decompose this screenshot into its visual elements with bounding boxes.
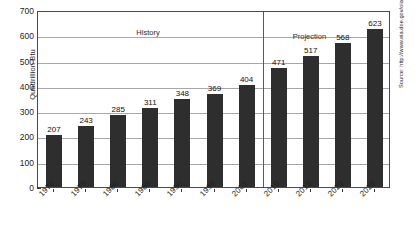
bar-2015 (303, 56, 319, 187)
bar-2025 (367, 29, 383, 187)
y-tick-label-0: 0 (0, 184, 34, 193)
bar-1975 (78, 126, 94, 187)
x-tickmark-1985 (149, 189, 150, 192)
bar-2001 (239, 85, 255, 187)
bar-chart: Quadrillion Btu 0100200300400500600700 2… (0, 0, 415, 252)
bar-2020 (335, 43, 351, 187)
bar-value-1975: 243 (72, 117, 100, 125)
history-projection-divider (263, 12, 264, 187)
bar-value-2015: 517 (297, 47, 325, 55)
x-tickmark-1995 (214, 189, 215, 192)
projection-label: Projection (293, 32, 326, 41)
bar-2010 (271, 68, 287, 187)
x-tickmark-1970 (53, 189, 54, 192)
x-tickmark-2020 (342, 189, 343, 192)
source-note: Source: http://www.eia.doe.gov/oiaf/ieo/… (398, 0, 404, 88)
x-tickmark-1990 (181, 189, 182, 192)
bar-value-2010: 471 (265, 59, 293, 67)
x-tickmark-2010 (278, 189, 279, 192)
y-tick-label-300: 300 (0, 108, 34, 117)
bar-value-1995: 369 (201, 85, 229, 93)
y-tick-label-700: 700 (0, 7, 34, 16)
bar-value-2001: 404 (233, 76, 261, 84)
bar-1980 (110, 115, 126, 187)
x-tickmark-2015 (310, 189, 311, 192)
history-label: History (136, 28, 159, 37)
bar-value-2025: 623 (361, 20, 389, 28)
bar-value-2020: 568 (329, 34, 357, 42)
plot-area: 207243285311348369404471517568623 Histor… (37, 11, 390, 188)
y-tick-label-100: 100 (0, 159, 34, 168)
x-tickmark-2025 (374, 189, 375, 192)
y-tick-label-600: 600 (0, 32, 34, 41)
y-tick-label-500: 500 (0, 58, 34, 67)
x-tickmark-1980 (117, 189, 118, 192)
y-axis-tick-labels: 0100200300400500600700 (0, 0, 34, 252)
x-tickmark-2001 (246, 189, 247, 192)
bar-1990 (174, 99, 190, 187)
bar-value-1985: 311 (136, 99, 164, 107)
bar-1985 (142, 108, 158, 187)
bar-value-1970: 207 (40, 126, 68, 134)
y-tick-label-200: 200 (0, 133, 34, 142)
bar-value-1990: 348 (168, 90, 196, 98)
x-tickmark-1975 (85, 189, 86, 192)
y-tick-label-400: 400 (0, 83, 34, 92)
x-axis-tick-labels: 1970197519801985199019952001201020152020… (37, 189, 390, 239)
bar-1995 (207, 94, 223, 187)
bar-value-1980: 285 (104, 106, 132, 114)
